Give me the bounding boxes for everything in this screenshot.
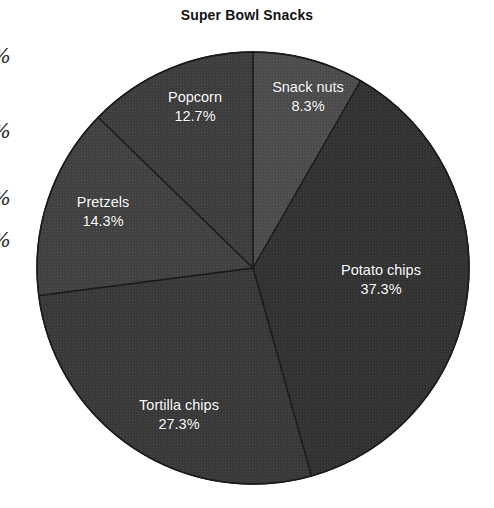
margin-bleed-glyph: % [0,228,13,252]
margin-bleed-glyph: % [0,186,13,210]
pie-texture-overlay [37,52,469,484]
pie-chart-svg [0,0,494,508]
chart-page: Super Bowl Snacks Snack nuts 8.3% Potato… [0,0,494,508]
margin-bleed-glyph: % [0,44,13,68]
margin-bleed-glyph: % [0,119,13,143]
pie-chart: Snack nuts 8.3% Potato chips 37.3% Torti… [0,0,494,508]
